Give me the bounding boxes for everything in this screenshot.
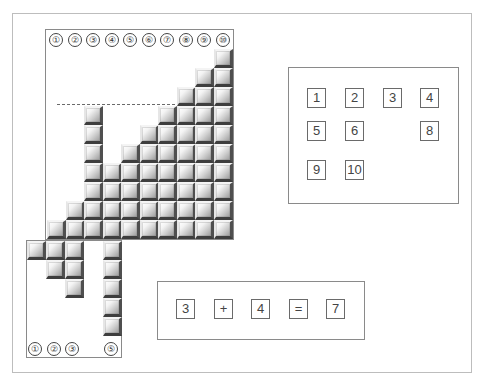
block [195,163,214,182]
column-label: ⑩ [216,33,230,47]
block [46,260,65,279]
block [140,182,159,201]
block [27,241,46,260]
column-label: ② [68,33,82,47]
number-box: 4 [420,88,439,108]
block [121,182,140,201]
block [177,144,196,163]
block [214,201,233,220]
block [140,125,159,144]
block [66,201,85,220]
block [177,125,196,144]
equation-token: 7 [326,299,345,319]
level-dashed-line [57,104,175,105]
block [158,106,177,125]
column-label: ⑧ [179,33,193,47]
block [214,144,233,163]
block [65,241,84,260]
number-box: 6 [345,121,364,141]
block [47,220,66,239]
block [84,125,103,144]
column-label: ⑥ [142,33,156,47]
block [214,87,233,106]
block [84,106,103,125]
column-label: ⑤ [123,33,137,47]
block [195,220,214,239]
block [195,125,214,144]
block [158,182,177,201]
block [103,317,122,336]
block [158,201,177,220]
block [177,182,196,201]
block [103,298,122,317]
block [177,106,196,125]
block [103,220,122,239]
number-box: 5 [307,121,326,141]
block [140,201,159,220]
equation-token: 3 [176,299,195,319]
block [177,163,196,182]
block [103,163,122,182]
block [140,144,159,163]
block [103,260,122,279]
block [177,201,196,220]
number-box: 1 [307,88,326,108]
block [214,220,233,239]
block [103,201,122,220]
block [177,220,196,239]
column-label: ⑦ [160,33,174,47]
block [195,106,214,125]
block [46,241,65,260]
column-label: ⑨ [197,33,211,47]
block [214,163,233,182]
equation-token: + [214,299,233,319]
block [158,220,177,239]
block [214,106,233,125]
block [140,220,159,239]
column-label: ① [28,342,42,356]
column-label: ⑤ [104,342,118,356]
block [195,182,214,201]
block [195,68,214,87]
block [158,144,177,163]
block [214,49,233,68]
column-label: ③ [65,342,79,356]
block [195,87,214,106]
block [195,144,214,163]
block [65,279,84,298]
block [121,163,140,182]
block [140,163,159,182]
number-box: 10 [345,160,364,180]
number-box: 2 [345,88,364,108]
column-label: ③ [86,33,100,47]
block [103,241,122,260]
column-label: ④ [105,33,119,47]
block [121,220,140,239]
equation-token: 4 [251,299,270,319]
block [214,68,233,87]
block [214,182,233,201]
block [121,144,140,163]
block [121,201,140,220]
block [66,220,85,239]
column-label: ② [47,342,61,356]
block [177,87,196,106]
number-box: 9 [307,160,326,180]
block [214,125,233,144]
block [158,125,177,144]
block [103,279,122,298]
equation-token: = [289,299,308,319]
block [84,163,103,182]
block [158,163,177,182]
block [84,201,103,220]
block [65,260,84,279]
block [84,182,103,201]
block [195,201,214,220]
number-box: 8 [420,121,439,141]
block [103,182,122,201]
block [84,220,103,239]
column-label: ① [49,33,63,47]
number-box: 3 [383,88,402,108]
block [84,144,103,163]
